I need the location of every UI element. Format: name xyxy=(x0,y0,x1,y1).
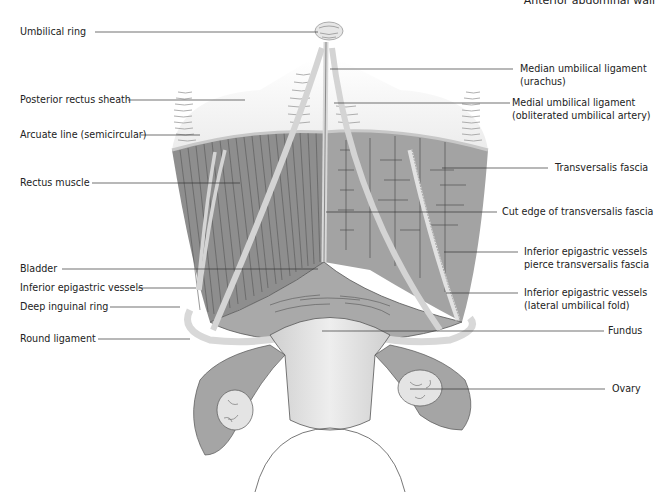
label-round-ligament: Round ligament xyxy=(20,333,96,346)
label-arcuate-line: Arcuate line (semicircular) xyxy=(20,129,147,142)
label-posterior-rectus-sheath: Posterior rectus sheath xyxy=(20,94,131,107)
label-transversalis-fascia: Transversalis fascia xyxy=(555,162,648,175)
label-rectus-muscle: Rectus muscle xyxy=(20,177,90,190)
label-cut-edge-transversalis-fascia: Cut edge of transversalis fascia xyxy=(502,206,653,219)
label-medial-umbilical-ligament: Medial umbilical ligament (obliterated u… xyxy=(512,97,651,122)
label-deep-inguinal-ring: Deep inguinal ring xyxy=(20,301,108,314)
left-tube-ovary xyxy=(194,345,285,455)
label-umbilical-ring: Umbilical ring xyxy=(20,26,86,39)
label-inferior-epigastric-lateral: Inferior epigastric vessels (lateral umb… xyxy=(524,287,647,312)
label-fundus: Fundus xyxy=(608,325,642,338)
label-inferior-epigastric-vessels: Inferior epigastric vessels xyxy=(20,282,143,295)
label-ovary: Ovary xyxy=(612,383,641,396)
label-bladder: Bladder xyxy=(20,263,57,276)
label-median-umbilical-ligament: Median umbilical ligament (urachus) xyxy=(520,63,647,88)
label-inferior-epigastric-pierce: Inferior epigastric vessels pierce trans… xyxy=(524,246,649,271)
umbilical-ring-shape xyxy=(315,22,343,40)
right-tube-ovary xyxy=(375,345,471,430)
uterus-shape xyxy=(255,318,405,492)
